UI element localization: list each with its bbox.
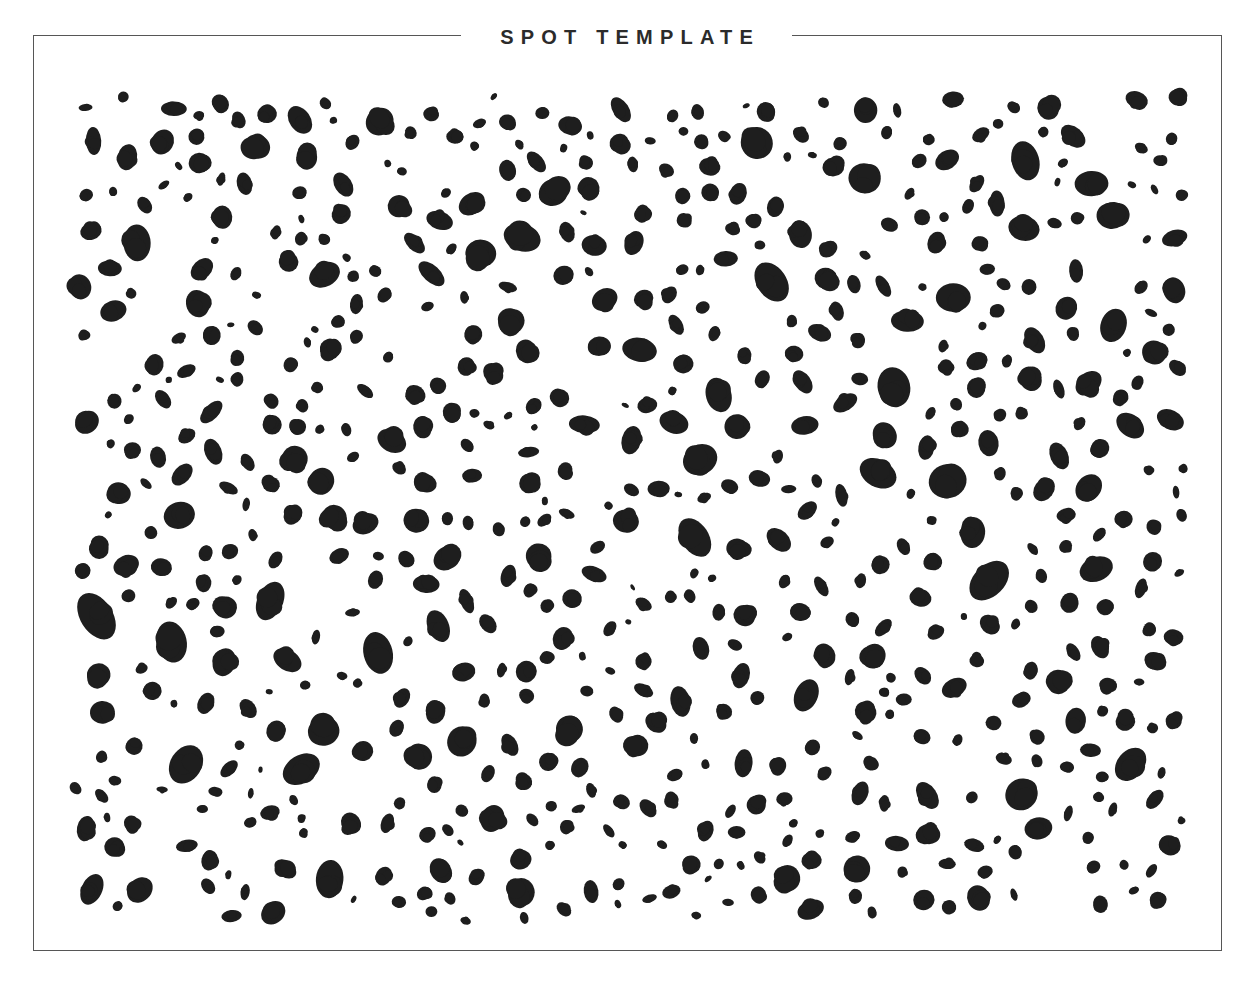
spot-pattern-canvas (66, 86, 1190, 928)
artboard: SPOT TEMPLATE (0, 0, 1253, 991)
spot-pattern-field (66, 86, 1190, 928)
